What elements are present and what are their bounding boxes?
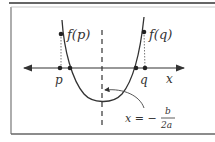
drop-line-q [144, 32, 145, 68]
label-x-axis: x [166, 72, 173, 86]
annotation-arrow [105, 90, 144, 108]
label-f-q: f(q) [148, 27, 172, 42]
point-root-left [68, 66, 73, 71]
formula-numerator: b [165, 106, 171, 116]
label-p: p [55, 73, 63, 87]
symmetry-formula: x = − b 2a [125, 106, 175, 130]
point-f-p [59, 32, 64, 37]
point-f-q [142, 30, 147, 35]
point-q [143, 66, 148, 71]
formula-denominator: 2a [160, 120, 172, 130]
formula-lhs: x = − [125, 112, 157, 125]
label-q: q [140, 73, 148, 87]
label-f-p: f(p) [66, 27, 90, 42]
point-root-right [134, 66, 139, 71]
point-p [58, 66, 63, 71]
parabola-diagram: f(p) f(q) p q x x = − b 2a [0, 0, 215, 142]
